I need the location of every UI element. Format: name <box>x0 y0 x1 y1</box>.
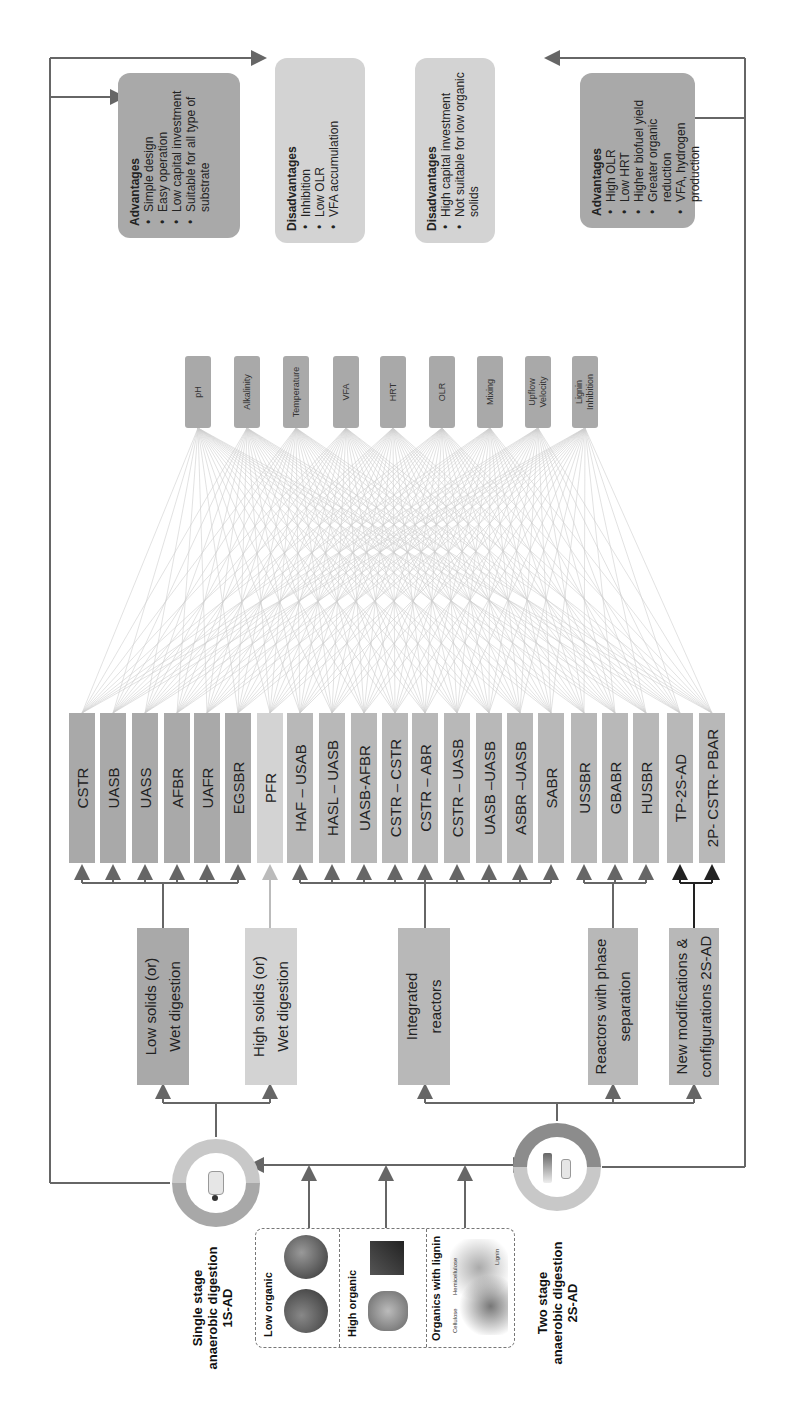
reactor-item: CSTR – ABR <box>412 713 438 863</box>
reactor-item: UASB-AFBR <box>351 713 377 863</box>
note-heading: Disadvantages <box>285 70 299 231</box>
note-item: Higher biofuel yield <box>632 85 646 202</box>
reactor-item: UASB –UASB <box>476 713 502 863</box>
note-heading: Disadvantages <box>425 70 439 231</box>
low-organic-image <box>284 1289 328 1333</box>
parameter-item: Upflow Velocity <box>525 356 551 428</box>
note-item: VFA, hydrogen production <box>674 85 702 202</box>
two-stage-disadvantages: Disadvantages High capital investmentNot… <box>415 58 495 243</box>
feedstock-box: Low organic High organic Organics with l… <box>255 1228 515 1348</box>
two-stage-reactor-icon <box>513 1123 601 1211</box>
diagram-canvas: Single stage anaerobic digestion 1S-AD T… <box>0 0 792 1403</box>
two-stage-title: Two stage anaerobic digestion 2S-AD <box>535 1213 580 1393</box>
parameter-item: Mixing <box>477 356 503 428</box>
single-stage-reactor-icon <box>172 1139 260 1227</box>
parameter-item: VFA <box>333 356 359 428</box>
high-organic-image <box>368 1291 408 1331</box>
reactor-item: USSBR <box>571 713 597 863</box>
note-item: High capital investment <box>439 70 453 217</box>
reactor-item: 2P- CSTR- PBAR <box>699 713 725 863</box>
reactor-item: HUSBR <box>633 713 659 863</box>
reactor-item: GBABR <box>602 713 628 863</box>
lignocellulose-image: Cellulose Hemicellulose Lignin <box>450 1239 508 1335</box>
category-low-solids: Low solids (or) Wet digestion <box>137 928 189 1085</box>
feedstock-low-organic-label: Low organic <box>262 1272 274 1337</box>
reactor-item: PFR <box>257 713 283 863</box>
note-item: Simple design <box>142 85 156 212</box>
category-integrated: Integrated reactors <box>398 928 450 1085</box>
hemicellulose-label: Hemicellulose <box>452 1258 458 1295</box>
reactor-item: EGSBR <box>225 713 251 863</box>
category-high-solids: High solids (or) Wet digestion <box>245 928 297 1085</box>
parameter-item: pH <box>185 356 211 428</box>
note-item: Easy operation <box>156 85 170 212</box>
note-item: Suitable for all type of substrate <box>184 85 212 212</box>
note-item: Low HRT <box>618 85 632 202</box>
single-stage-title: Single stage anaerobic digestion 1S-AD <box>190 1223 235 1393</box>
note-heading: Advantages <box>590 85 604 216</box>
category-new-modifications: New modifications & configurations 2S-AD <box>669 928 719 1085</box>
high-organic-image <box>370 1241 404 1275</box>
parameter-item: Alkalinity <box>234 356 260 428</box>
reactor-item: CSTR – UASB <box>444 713 470 863</box>
note-item: Greater organic reduction <box>646 85 674 202</box>
note-item: Low OLR <box>313 70 327 217</box>
note-heading: Advantages <box>128 85 142 226</box>
feedstock-lignin-label: Organics with lignin <box>430 1236 442 1341</box>
note-items: High OLRLow HRTHigher biofuel yieldGreat… <box>604 85 702 216</box>
note-item: Not suitable for low organic solids <box>453 70 481 217</box>
parameter-item: Temperature <box>283 356 309 428</box>
reactor-item: UASB <box>100 713 126 863</box>
note-item: Low capital investment <box>170 85 184 212</box>
cellulose-label: Cellulose <box>452 1308 458 1333</box>
single-stage-disadvantages: Disadvantages InhibitionLow OLRVFA accum… <box>275 58 365 243</box>
reactor-item: HAF – USAB <box>287 713 313 863</box>
reactor-item: TP-2S-AD <box>667 713 693 863</box>
category-phase-separation: Reactors with phase separation <box>588 928 638 1085</box>
note-item: Inhibition <box>299 70 313 217</box>
two-stage-advantages: Advantages High OLRLow HRTHigher biofuel… <box>580 73 695 228</box>
note-item: High OLR <box>604 85 618 202</box>
reactor-item: UASS <box>132 713 158 863</box>
reactor-item: SABR <box>538 713 564 863</box>
reactor-item: CSTR <box>69 713 95 863</box>
note-items: High capital investmentNot suitable for … <box>439 70 481 231</box>
parameter-item: Lignin Inhibition <box>572 356 598 428</box>
note-items: InhibitionLow OLRVFA accumulation <box>299 70 341 231</box>
lignin-label: Lignin <box>494 1249 500 1265</box>
reactor-item: AFBR <box>164 713 190 863</box>
reactor-item: ASBR –UASB <box>507 713 533 863</box>
note-item: VFA accumulation <box>327 70 341 217</box>
reactor-item: CSTR – CSTR <box>382 713 408 863</box>
parameter-item: HRT <box>380 356 406 428</box>
single-stage-advantages: Advantages Simple designEasy operationLo… <box>118 73 240 238</box>
note-items: Simple designEasy operationLow capital i… <box>142 85 212 226</box>
reactor-item: UAFR <box>194 713 220 863</box>
parameter-item: OLR <box>429 356 455 428</box>
low-organic-image <box>284 1235 328 1279</box>
reactor-item: HASL – UASB <box>319 713 345 863</box>
feedstock-high-organic-label: High organic <box>346 1270 358 1337</box>
